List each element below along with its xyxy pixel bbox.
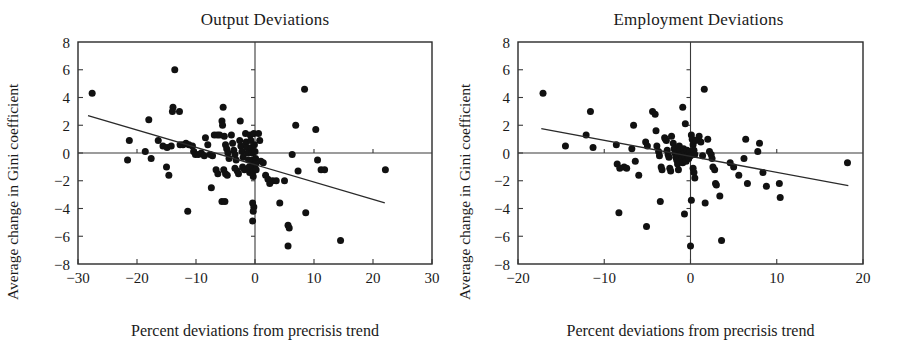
data-point — [250, 208, 257, 215]
data-point — [687, 242, 694, 249]
data-point — [208, 184, 215, 191]
x-tick-label: 10 — [307, 270, 322, 286]
data-point — [382, 166, 389, 173]
x-tick-label: 10 — [769, 270, 784, 286]
data-point — [155, 137, 162, 144]
data-point — [623, 165, 630, 172]
data-point — [756, 140, 763, 147]
data-point — [202, 134, 209, 141]
data-point — [163, 163, 170, 170]
data-point — [657, 198, 664, 205]
y-tick-label: 0 — [63, 146, 71, 162]
trend-line — [88, 116, 385, 203]
y-tick-label: −8 — [494, 257, 510, 273]
y-tick-label: −6 — [54, 229, 70, 245]
data-point — [314, 156, 321, 163]
data-point — [635, 172, 642, 179]
data-point — [744, 180, 751, 187]
data-point — [276, 199, 283, 206]
x-tick-label: 0 — [251, 270, 259, 286]
data-point — [692, 137, 699, 144]
x-tick-label: −10 — [184, 270, 207, 286]
scatter-plot-output: −30−20−100102030−8−6−4−202468 — [0, 0, 450, 344]
data-point — [221, 133, 228, 140]
data-point — [220, 104, 227, 111]
data-point — [704, 136, 711, 143]
data-point — [321, 166, 328, 173]
data-point — [659, 166, 666, 173]
data-point — [718, 237, 725, 244]
data-point — [590, 144, 597, 151]
data-point — [176, 108, 183, 115]
data-point — [682, 120, 689, 127]
data-point — [754, 148, 761, 155]
data-point — [675, 166, 682, 173]
data-point — [145, 116, 152, 123]
data-point — [679, 104, 686, 111]
scatter-plot-employment: −20−1001020−8−6−4−202468 — [450, 0, 899, 344]
data-point — [301, 86, 308, 93]
data-point — [255, 130, 262, 137]
data-point — [656, 152, 663, 159]
x-tick-label: −20 — [125, 270, 148, 286]
data-point — [285, 242, 292, 249]
data-point — [742, 136, 749, 143]
data-point — [289, 151, 296, 158]
data-point — [224, 172, 231, 179]
data-point — [168, 143, 175, 150]
data-point — [302, 209, 309, 216]
data-point — [716, 193, 723, 200]
data-point — [256, 137, 263, 144]
y-tick-label: 0 — [503, 146, 511, 162]
data-point — [169, 108, 176, 115]
data-point — [124, 156, 131, 163]
x-axis-label: Percent deviations from precrisis trend — [518, 322, 863, 340]
data-point — [273, 177, 280, 184]
data-point — [286, 224, 293, 231]
y-tick-label: −4 — [54, 201, 70, 217]
data-point — [691, 174, 698, 181]
data-point — [632, 158, 639, 165]
y-tick-label: −6 — [494, 229, 510, 245]
data-point — [337, 237, 344, 244]
y-tick-label: 4 — [63, 90, 71, 106]
x-tick-label: 0 — [687, 270, 695, 286]
data-point — [667, 168, 674, 175]
y-tick-label: 4 — [503, 90, 511, 106]
data-point — [250, 173, 257, 180]
data-point — [249, 217, 256, 224]
data-point — [652, 111, 659, 118]
data-point — [763, 183, 770, 190]
data-point — [228, 131, 235, 138]
y-tick-label: 8 — [503, 35, 511, 51]
data-point — [126, 137, 133, 144]
data-point — [735, 172, 742, 179]
data-point — [89, 90, 96, 97]
figure-container: Output Deviations Average change in Gini… — [0, 0, 899, 344]
data-point — [253, 166, 260, 173]
data-point — [777, 194, 784, 201]
data-point — [292, 122, 299, 129]
data-point — [643, 223, 650, 230]
panel-employment-deviations: Employment Deviations −20−1001020−8−6−4−… — [450, 0, 899, 344]
data-point — [702, 199, 709, 206]
data-point — [711, 166, 718, 173]
data-point — [776, 180, 783, 187]
data-point — [587, 108, 594, 115]
x-tick-label: 20 — [366, 270, 381, 286]
data-point — [184, 208, 191, 215]
y-axis-label: Average change in Gini coefficient — [456, 84, 474, 300]
data-point — [165, 172, 172, 179]
data-point — [204, 141, 211, 148]
y-tick-label: 6 — [63, 62, 71, 78]
data-point — [681, 211, 688, 218]
data-point — [740, 155, 747, 162]
data-point — [653, 127, 660, 134]
data-point — [713, 181, 720, 188]
y-tick-label: −2 — [54, 173, 70, 189]
x-tick-label: −10 — [593, 270, 616, 286]
x-tick-label: 30 — [425, 270, 440, 286]
data-point — [201, 152, 208, 159]
y-tick-label: 2 — [63, 118, 71, 134]
data-point — [701, 86, 708, 93]
